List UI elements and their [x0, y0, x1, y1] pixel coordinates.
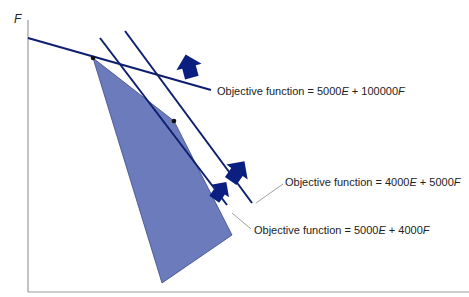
leader-line [232, 213, 251, 229]
optimal-vertex-point [172, 119, 177, 124]
f-variable: F [398, 85, 405, 97]
leader-line [256, 184, 283, 203]
objective-label-2: Objective function = 4000E + 5000F [285, 176, 461, 188]
objective-label-3: Objective function = 5000E + 4000F [254, 224, 430, 236]
e-coefficient: 5000 [317, 85, 341, 97]
direction-arrow-icon [173, 51, 204, 81]
e-coefficient: 5000 [354, 224, 378, 236]
diagram-canvas [0, 0, 469, 297]
label-prefix: Objective function = [285, 176, 385, 188]
plus-sign: + [417, 176, 430, 188]
label-prefix: Objective function = [217, 85, 317, 97]
plus-sign: + [349, 85, 362, 97]
f-variable: F [423, 224, 430, 236]
f-coefficient: 5000 [429, 176, 453, 188]
f-coefficient: 4000 [398, 224, 422, 236]
e-variable: E [378, 224, 385, 236]
f-coefficient: 100000 [361, 85, 398, 97]
vertex-point [91, 56, 96, 61]
y-axis-label: F [14, 12, 21, 26]
feasible-region [93, 58, 232, 283]
e-variable: E [341, 85, 348, 97]
e-coefficient: 4000 [385, 176, 409, 188]
e-variable: E [409, 176, 416, 188]
label-prefix: Objective function = [254, 224, 354, 236]
objective-label-1: Objective function = 5000E + 100000F [217, 85, 405, 97]
plus-sign: + [386, 224, 399, 236]
f-variable: F [454, 176, 461, 188]
